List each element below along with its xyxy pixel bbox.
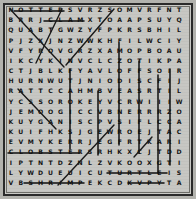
- grid-cell[interactable]: U: [46, 168, 56, 178]
- grid-cell[interactable]: C: [154, 117, 164, 127]
- grid-cell[interactable]: L: [95, 56, 105, 66]
- grid-cell[interactable]: K: [115, 158, 125, 168]
- grid-cell[interactable]: R: [6, 86, 16, 96]
- grid-cell[interactable]: C: [75, 107, 85, 117]
- grid-cell[interactable]: S: [144, 66, 154, 76]
- grid-cell[interactable]: P: [75, 178, 85, 188]
- grid-cell[interactable]: J: [26, 66, 36, 76]
- grid-cell[interactable]: A: [174, 178, 184, 188]
- grid-cell[interactable]: R: [85, 5, 95, 15]
- grid-cell[interactable]: T: [36, 86, 46, 96]
- grid-cell[interactable]: I: [144, 56, 154, 66]
- grid-cell[interactable]: O: [125, 46, 135, 56]
- grid-cell[interactable]: W: [75, 36, 85, 46]
- grid-cell[interactable]: K: [46, 137, 56, 147]
- grid-cell[interactable]: D: [174, 147, 184, 157]
- grid-cell[interactable]: P: [135, 15, 145, 25]
- grid-cell[interactable]: I: [164, 66, 174, 76]
- grid-cell[interactable]: L: [144, 117, 154, 127]
- grid-cell[interactable]: A: [85, 66, 95, 76]
- grid-cell[interactable]: C: [115, 97, 125, 107]
- grid-cell[interactable]: X: [144, 158, 154, 168]
- grid-cell[interactable]: I: [144, 97, 154, 107]
- grid-cell[interactable]: V: [135, 178, 145, 188]
- grid-cell[interactable]: U: [16, 117, 26, 127]
- grid-cell[interactable]: B: [16, 178, 26, 188]
- grid-cell[interactable]: Y: [36, 56, 46, 66]
- grid-cell[interactable]: I: [164, 168, 174, 178]
- grid-cell[interactable]: E: [115, 86, 125, 96]
- grid-cell[interactable]: N: [55, 36, 65, 46]
- grid-cell[interactable]: I: [95, 76, 105, 86]
- grid-cell[interactable]: F: [36, 127, 46, 137]
- grid-cell[interactable]: T: [135, 137, 145, 147]
- grid-cell[interactable]: T: [164, 158, 174, 168]
- grid-cell[interactable]: F: [135, 66, 145, 76]
- grid-cell[interactable]: I: [26, 127, 36, 137]
- grid-cell[interactable]: W: [26, 168, 36, 178]
- grid-cell[interactable]: O: [125, 56, 135, 66]
- grid-cell[interactable]: O: [115, 5, 125, 15]
- grid-cell[interactable]: H: [105, 147, 115, 157]
- grid-cell[interactable]: S: [135, 86, 145, 96]
- grid-cell[interactable]: T: [26, 86, 36, 96]
- grid-cell[interactable]: W: [85, 36, 95, 46]
- grid-cell[interactable]: K: [6, 127, 16, 137]
- grid-cell[interactable]: T: [26, 158, 36, 168]
- grid-cell[interactable]: L: [105, 66, 115, 76]
- grid-cell[interactable]: U: [16, 25, 26, 35]
- grid-cell[interactable]: U: [55, 76, 65, 86]
- grid-cell[interactable]: C: [85, 117, 95, 127]
- grid-cell[interactable]: I: [154, 97, 164, 107]
- grid-cell[interactable]: B: [144, 25, 154, 35]
- grid-cell[interactable]: Z: [115, 56, 125, 66]
- grid-cell[interactable]: A: [105, 46, 115, 56]
- grid-cell[interactable]: C: [164, 117, 174, 127]
- grid-cell[interactable]: I: [6, 56, 16, 66]
- grid-cell[interactable]: R: [75, 147, 85, 157]
- grid-cell[interactable]: T: [154, 86, 164, 96]
- grid-cell[interactable]: B: [36, 147, 46, 157]
- grid-cell[interactable]: S: [135, 25, 145, 35]
- grid-cell[interactable]: W: [135, 97, 145, 107]
- grid-cell[interactable]: C: [174, 127, 184, 137]
- grid-cell[interactable]: R: [154, 107, 164, 117]
- grid-cell[interactable]: T: [46, 158, 56, 168]
- grid-cell[interactable]: R: [115, 127, 125, 137]
- grid-cell[interactable]: T: [105, 168, 115, 178]
- grid-cell[interactable]: T: [16, 66, 26, 76]
- grid-cell[interactable]: I: [65, 117, 75, 127]
- grid-cell[interactable]: X: [85, 15, 95, 25]
- grid-cell[interactable]: Z: [26, 36, 36, 46]
- grid-cell[interactable]: C: [154, 36, 164, 46]
- grid-cell[interactable]: O: [135, 158, 145, 168]
- grid-cell[interactable]: C: [85, 56, 95, 66]
- grid-cell[interactable]: H: [154, 25, 164, 35]
- grid-cell[interactable]: K: [55, 127, 65, 137]
- grid-cell[interactable]: B: [36, 25, 46, 35]
- grid-cell[interactable]: R: [125, 25, 135, 35]
- grid-cell[interactable]: T: [46, 25, 56, 35]
- grid-cell[interactable]: V: [105, 158, 115, 168]
- grid-cell[interactable]: G: [36, 117, 46, 127]
- grid-cell[interactable]: C: [85, 168, 95, 178]
- grid-cell[interactable]: I: [164, 76, 174, 86]
- grid-cell[interactable]: R: [75, 137, 85, 147]
- grid-cell[interactable]: F: [16, 46, 26, 56]
- grid-cell[interactable]: T: [55, 147, 65, 157]
- grid-cell[interactable]: K: [95, 36, 105, 46]
- grid-cell[interactable]: S: [65, 5, 75, 15]
- grid-cell[interactable]: U: [174, 46, 184, 56]
- grid-cell[interactable]: C: [6, 147, 16, 157]
- grid-cell[interactable]: M: [115, 46, 125, 56]
- grid-cell[interactable]: S: [46, 147, 56, 157]
- grid-cell[interactable]: R: [46, 178, 56, 188]
- grid-cell[interactable]: Q: [6, 25, 16, 35]
- grid-cell[interactable]: X: [125, 147, 135, 157]
- grid-cell[interactable]: J: [144, 147, 154, 157]
- grid-cell[interactable]: S: [135, 76, 145, 86]
- grid-cell[interactable]: R: [135, 107, 145, 117]
- grid-cell[interactable]: L: [174, 86, 184, 96]
- grid-cell[interactable]: C: [6, 66, 16, 76]
- grid-cell[interactable]: K: [95, 178, 105, 188]
